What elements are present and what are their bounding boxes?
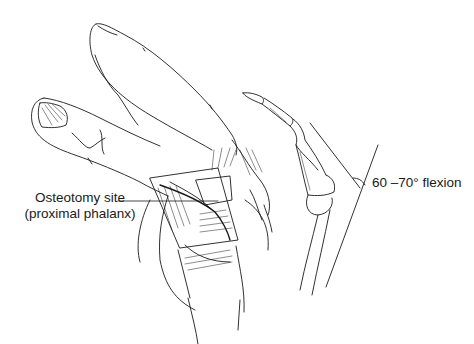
flexion-angle-lines	[310, 123, 378, 287]
hand-drawing	[0, 0, 474, 344]
osteotomy-label-line1: Osteotomy site	[20, 190, 140, 206]
upper-finger	[90, 24, 237, 155]
medical-illustration: Osteotomy site (proximal phalanx) 60 –70…	[0, 0, 474, 344]
osteotomy-site-label: Osteotomy site (proximal phalanx)	[20, 190, 140, 222]
osteotomy-label-line2: (proximal phalanx)	[20, 206, 140, 222]
lower-finger	[32, 98, 169, 196]
finger-skeleton	[243, 93, 335, 295]
surgical-exposure	[138, 140, 272, 344]
flexion-angle-label: 60 –70° flexion	[372, 175, 461, 191]
